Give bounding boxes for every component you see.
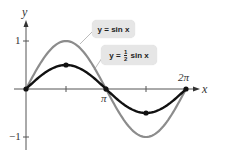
data-point — [23, 86, 28, 91]
data-point — [143, 110, 148, 115]
x-tick-label-pi: π — [101, 93, 107, 104]
fraction-denominator: 2 — [124, 56, 127, 62]
data-point — [63, 62, 68, 67]
y-tick-label-neg1: −1 — [9, 131, 21, 142]
data-point — [183, 86, 188, 91]
half-sin-legend-label: y = 1 2 sin x — [101, 45, 157, 65]
x-tick-label-2pi: 2π — [178, 72, 189, 83]
x-axis-label: x — [202, 83, 207, 95]
y-axis-label: y — [22, 6, 27, 18]
data-point — [103, 86, 108, 91]
fraction-numerator: 1 — [124, 49, 127, 56]
y-axis-arrow-icon — [24, 20, 29, 27]
x-axis-arrow-icon — [193, 87, 200, 92]
half-sin-prefix: y = — [109, 51, 123, 60]
sin-legend-label: y = sin x — [92, 20, 135, 38]
half-sin-fraction: 1 2 — [124, 49, 127, 62]
y-tick-label-1: 1 — [15, 35, 21, 46]
half-sin-suffix: sin x — [128, 51, 148, 60]
